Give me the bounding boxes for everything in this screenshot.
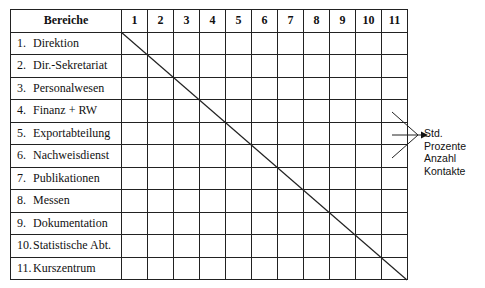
row-name: Nachweisdienst (33, 148, 109, 162)
matrix-cell (122, 55, 148, 78)
matrix-cell (200, 32, 226, 55)
matrix-cell (382, 167, 408, 190)
matrix-cell (226, 77, 252, 100)
matrix-cell (148, 100, 174, 123)
matrix-cell (382, 77, 408, 100)
interaction-matrix: Bereiche 1 2 3 4 5 6 7 8 9 10 11 1.Direk… (10, 9, 408, 280)
matrix-cell (330, 145, 356, 168)
legend: Std. Prozente Anzahl Kontakte (424, 127, 466, 177)
matrix-cell (252, 212, 278, 235)
matrix-cell (356, 145, 382, 168)
matrix-cell (330, 122, 356, 145)
matrix-row: 10.Statistische Abt. (11, 235, 408, 258)
matrix-cell (226, 122, 252, 145)
matrix-cell (174, 235, 200, 258)
matrix-cell (122, 32, 148, 55)
matrix-cell (356, 235, 382, 258)
row-label: 4.Finanz + RW (11, 100, 122, 123)
matrix-cell (278, 212, 304, 235)
matrix-cell (382, 122, 408, 145)
legend-item-anzahl: Anzahl (424, 152, 466, 165)
matrix-cell (304, 32, 330, 55)
row-name: Messen (33, 193, 70, 207)
row-index: 2. (17, 58, 33, 73)
row-label: 1.Direktion (11, 32, 122, 55)
matrix-cell (252, 55, 278, 78)
matrix-cell (278, 167, 304, 190)
matrix-cell (200, 235, 226, 258)
matrix-cell (148, 212, 174, 235)
matrix-cell (330, 257, 356, 280)
column-header-1: 1 (122, 10, 148, 33)
row-index: 3. (17, 81, 33, 96)
matrix-cell (174, 77, 200, 100)
matrix-cell (304, 257, 330, 280)
matrix-cell (252, 235, 278, 258)
matrix-cell (278, 100, 304, 123)
column-header-10: 10 (356, 10, 382, 33)
matrix-cell (200, 55, 226, 78)
matrix-cell (122, 212, 148, 235)
matrix-cell (252, 257, 278, 280)
matrix-cell (226, 167, 252, 190)
matrix-cell (174, 145, 200, 168)
matrix-cell (122, 190, 148, 213)
matrix-cell (148, 190, 174, 213)
row-index: 10. (17, 238, 33, 253)
matrix-cell (122, 100, 148, 123)
matrix-cell (382, 55, 408, 78)
matrix-cell (356, 257, 382, 280)
matrix-cell (330, 100, 356, 123)
matrix-row: 7.Publikationen (11, 167, 408, 190)
matrix-cell (148, 257, 174, 280)
legend-item-kontakte: Kontakte (424, 165, 466, 178)
matrix-cell (330, 235, 356, 258)
row-name: Dir.-Sekretariat (33, 58, 107, 72)
matrix-row: 11.Kurszentrum (11, 257, 408, 280)
matrix-cell (226, 235, 252, 258)
matrix-cell (278, 145, 304, 168)
matrix-cell (252, 167, 278, 190)
matrix-cell (226, 145, 252, 168)
matrix-cell (174, 167, 200, 190)
row-label: 11.Kurszentrum (11, 257, 122, 280)
matrix-cell (252, 77, 278, 100)
row-index: 9. (17, 216, 33, 231)
matrix-cell (226, 257, 252, 280)
matrix-cell (356, 122, 382, 145)
matrix-cell (252, 145, 278, 168)
row-label: 9.Dokumentation (11, 212, 122, 235)
matrix-cell (304, 55, 330, 78)
row-index: 8. (17, 193, 33, 208)
column-header-4: 4 (200, 10, 226, 33)
row-name: Statistische Abt. (33, 238, 111, 252)
matrix-cell (174, 257, 200, 280)
header-row: Bereiche 1 2 3 4 5 6 7 8 9 10 11 (11, 10, 408, 33)
row-name: Kurszentrum (33, 261, 96, 275)
matrix-row: 8.Messen (11, 190, 408, 213)
matrix-cell (304, 77, 330, 100)
matrix-row: 3.Personalwesen (11, 77, 408, 100)
matrix-cell (122, 167, 148, 190)
row-name: Publikationen (33, 171, 100, 185)
matrix-cell (174, 190, 200, 213)
matrix-cell (122, 77, 148, 100)
column-header-8: 8 (304, 10, 330, 33)
matrix-cell (226, 55, 252, 78)
row-name: Exportabteilung (33, 126, 110, 140)
matrix-cell (382, 212, 408, 235)
row-name: Personalwesen (33, 81, 104, 95)
column-header-6: 6 (252, 10, 278, 33)
matrix-cell (278, 55, 304, 78)
row-label: 3.Personalwesen (11, 77, 122, 100)
matrix-cell (278, 122, 304, 145)
matrix-cell (200, 122, 226, 145)
matrix-cell (278, 257, 304, 280)
matrix-cell (200, 257, 226, 280)
matrix-cell (356, 77, 382, 100)
matrix-cell (278, 235, 304, 258)
row-label: 7.Publikationen (11, 167, 122, 190)
matrix-cell (304, 122, 330, 145)
matrix-cell (382, 235, 408, 258)
legend-item-std: Std. (424, 127, 466, 140)
